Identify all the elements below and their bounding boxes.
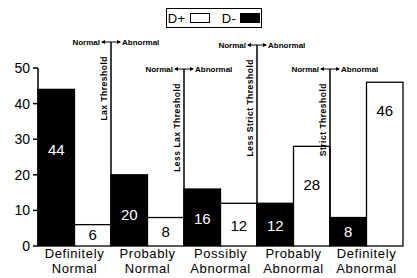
y-tick-label: 20 <box>14 167 30 183</box>
arrow-left-icon <box>101 40 105 44</box>
x-category-label: Definitely <box>337 246 396 261</box>
arrow-right-icon <box>117 40 121 44</box>
x-axis-labels: DefinitelyNormalProbablyNormalPossiblyAb… <box>45 246 397 276</box>
threshold-abnormal-label: Abnormal <box>268 41 305 50</box>
x-category-label: Abnormal <box>336 261 396 276</box>
y-tick-label: 40 <box>14 96 30 112</box>
bar-value-label: 44 <box>48 141 65 158</box>
x-category-label: Probably <box>119 246 175 261</box>
x-category-label: Normal <box>125 261 171 276</box>
threshold-normal-label: Normal <box>145 65 173 74</box>
bar-dneg <box>38 89 75 246</box>
bar-value-label: 12 <box>267 217 284 234</box>
bar-value-label: 28 <box>303 176 320 193</box>
x-category-label: Abnormal <box>263 261 323 276</box>
bar-value-label: 12 <box>230 217 247 234</box>
x-category-label: Normal <box>52 261 98 276</box>
y-tick-label: 30 <box>14 131 30 147</box>
arrow-right-icon <box>190 67 194 71</box>
x-category-label: Abnormal <box>190 261 250 276</box>
arrow-left-icon <box>320 67 324 71</box>
y-tick-label: 50 <box>14 60 30 76</box>
threshold-normal-label: Normal <box>291 65 319 74</box>
x-category-label: Definitely <box>45 246 104 261</box>
y-axis: 01020304050 <box>14 60 38 254</box>
bar-dpos <box>294 146 331 246</box>
threshold-name-label: Less Lax Threshold <box>172 83 182 172</box>
bars: 44620816121228846 <box>38 82 403 246</box>
bar-value-label: 8 <box>162 223 170 240</box>
threshold-abnormal-label: Abnormal <box>122 38 159 47</box>
arrow-right-icon <box>336 67 340 71</box>
bar-value-label: 16 <box>194 210 211 227</box>
bar-value-label: 46 <box>376 102 393 119</box>
threshold-name-label: Strict Threshold <box>318 83 328 156</box>
x-category-label: Probably <box>265 246 321 261</box>
x-category-label: Possibly <box>194 246 247 261</box>
y-tick-label: 10 <box>14 202 30 218</box>
arrow-left-icon <box>247 43 251 47</box>
threshold-name-label: Less Strict Threshold <box>245 59 255 156</box>
threshold-abnormal-label: Abnormal <box>341 65 378 74</box>
bar-chart: 01020304050 44620816121228846 NormalAbno… <box>0 0 417 278</box>
bar-value-label: 6 <box>89 226 97 243</box>
threshold-name-label: Lax Threshold <box>99 56 109 121</box>
bar-value-label: 8 <box>344 223 352 240</box>
threshold-normal-label: Normal <box>218 41 246 50</box>
threshold-normal-label: Normal <box>72 38 100 47</box>
threshold-abnormal-label: Abnormal <box>195 65 232 74</box>
y-tick-label: 0 <box>22 238 30 254</box>
arrow-right-icon <box>263 43 267 47</box>
arrow-left-icon <box>174 67 178 71</box>
bar-value-label: 20 <box>121 206 138 223</box>
